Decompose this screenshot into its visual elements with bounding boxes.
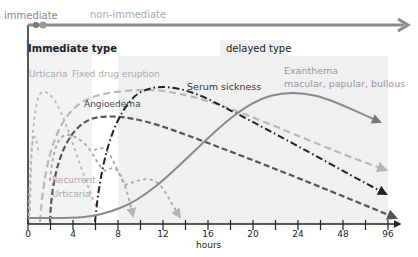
- x-axis-label: hours: [196, 241, 221, 250]
- tick-label-20: 20: [247, 229, 258, 239]
- angioedema-curve: [50, 117, 396, 222]
- tick-label-0: 0: [25, 229, 31, 239]
- non-immediate-label: non-immediate: [90, 10, 166, 20]
- fixed-drug-eruption-curve: [40, 90, 386, 222]
- tick-label-12: 12: [157, 229, 168, 239]
- immediate-marker-icon: [33, 22, 39, 28]
- tick-label-96: 96: [382, 229, 393, 239]
- angioedema-label: Angioedema: [84, 100, 141, 109]
- immediate-type-label: Immediate type: [28, 44, 117, 54]
- recurrent-urticaria-label-line2: Urticaria: [52, 190, 91, 199]
- tick-label-8: 8: [115, 229, 121, 239]
- diagram-canvas: [0, 0, 418, 257]
- tick-label-4: 4: [70, 229, 76, 239]
- tick-label-16: 16: [202, 229, 213, 239]
- recurrent-urticaria-label-line1: Recurrent: [52, 176, 96, 185]
- serum-sickness-label: Serum sickness: [187, 82, 261, 92]
- tick-label-48: 48: [337, 229, 348, 239]
- exanthema-curve: [28, 93, 380, 218]
- exanthema-label-line1: Exanthema: [284, 66, 338, 76]
- fixed-drug-eruption-label: Fixed drug eruption: [72, 70, 160, 79]
- non-immediate-marker-icon: [40, 22, 47, 29]
- delayed-type-label: delayed type: [226, 44, 291, 54]
- exanthema-label-line2: macular, papular, bullous: [284, 79, 405, 89]
- urticaria-label: Urticaria: [29, 70, 68, 79]
- tick-label-24: 24: [292, 229, 303, 239]
- immediate-label: immediate: [4, 11, 58, 21]
